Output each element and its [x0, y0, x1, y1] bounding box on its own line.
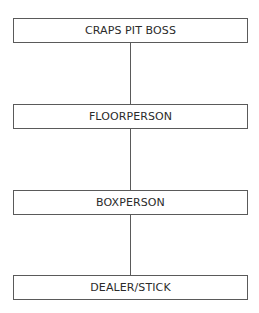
node-label: BOXPERSON — [96, 196, 165, 209]
connector-line-boxperson-to-dealer — [130, 215, 131, 275]
connector-line-floorperson-to-boxperson — [130, 129, 131, 190]
connector-line-pitboss-to-floorperson — [130, 43, 131, 104]
node-label: FLOORPERSON — [89, 110, 172, 123]
node-floorperson: FLOORPERSON — [13, 104, 248, 129]
node-dealer-stick: DEALER/STICK — [13, 275, 248, 300]
node-label: DEALER/STICK — [90, 281, 170, 294]
org-chart-diagram: CRAPS PIT BOSS FLOORPERSON BOXPERSON DEA… — [0, 0, 259, 313]
node-boxperson: BOXPERSON — [13, 190, 248, 215]
node-label: CRAPS PIT BOSS — [85, 24, 176, 37]
node-craps-pit-boss: CRAPS PIT BOSS — [13, 18, 248, 43]
